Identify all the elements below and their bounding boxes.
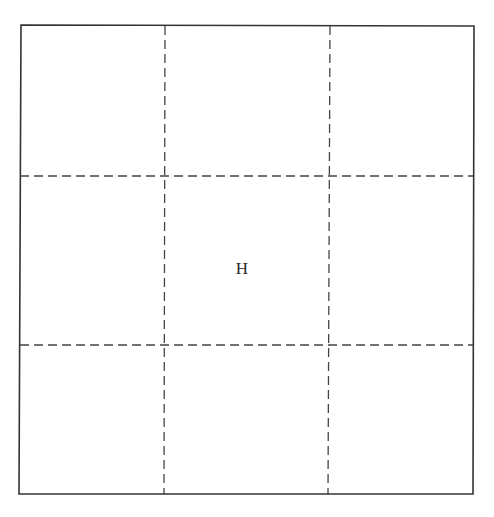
center-cell-label: H [236,260,248,277]
vertical-divider-right [328,26,330,494]
grid-diagram: H [0,0,494,517]
vertical-divider-left [164,26,165,494]
